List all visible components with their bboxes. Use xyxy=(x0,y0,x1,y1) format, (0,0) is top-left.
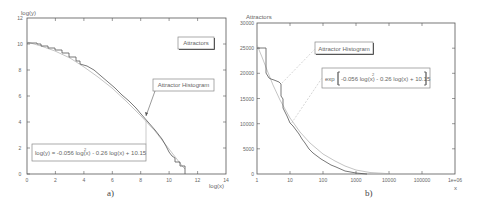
chart-b-fit-annotation: exp -0.056 log(x) - 0.26 log(x) + 10.15 … xyxy=(291,68,431,124)
svg-text:100000: 100000 xyxy=(414,177,431,183)
svg-text:100: 100 xyxy=(319,177,328,183)
chart-a-legend: Attractors xyxy=(178,37,215,50)
svg-text:15000: 15000 xyxy=(240,96,254,102)
chart-a: log(y) 0 2 4 6 8 10 12 xyxy=(17,10,229,198)
svg-text:4: 4 xyxy=(19,119,22,125)
svg-text:2: 2 xyxy=(54,177,57,183)
chart-b-fit-curve xyxy=(257,45,389,174)
svg-text:10: 10 xyxy=(287,177,293,183)
svg-text:10000: 10000 xyxy=(240,121,254,127)
svg-text:8: 8 xyxy=(139,177,142,183)
svg-text:log(y) = -0.056 log(x) - 0.26: log(y) = -0.056 log(x) - 0.26 log(x) + 1… xyxy=(35,150,147,156)
chart-a-fit-annotation: log(y) = -0.056 log(x) - 0.26 log(x) + 1… xyxy=(32,121,147,161)
svg-text:1e+06: 1e+06 xyxy=(448,177,462,183)
svg-text:12: 12 xyxy=(17,15,23,21)
figure: log(y) 0 2 4 6 8 10 12 xyxy=(0,0,480,202)
svg-text:0: 0 xyxy=(251,171,254,177)
chart-b: Attractors 0 5000 10000 15000 20000 2500… xyxy=(240,14,462,198)
chart-b-histogram xyxy=(257,48,367,174)
chart-a-caption: a) xyxy=(107,188,114,198)
chart-a-xlabel: log(x) xyxy=(209,183,224,189)
svg-text:30000: 30000 xyxy=(240,20,254,26)
svg-text:10000: 10000 xyxy=(382,177,396,183)
svg-text:25000: 25000 xyxy=(240,45,254,51)
svg-text:12: 12 xyxy=(195,177,201,183)
svg-text:Attractors: Attractors xyxy=(183,40,209,46)
svg-text:6: 6 xyxy=(111,177,114,183)
svg-text:6: 6 xyxy=(19,93,22,99)
svg-text:5000: 5000 xyxy=(243,146,254,152)
svg-text:Attractor Histogram: Attractor Histogram xyxy=(158,82,210,88)
svg-text:2: 2 xyxy=(19,145,22,151)
svg-text:0: 0 xyxy=(19,171,22,177)
svg-text:20000: 20000 xyxy=(240,70,254,76)
chart-a-ylabel: log(y) xyxy=(21,10,36,16)
svg-text:0: 0 xyxy=(26,177,29,183)
chart-a-histogram-annotation: Attractor Histogram xyxy=(145,79,214,116)
svg-text:Attractor Histogram: Attractor Histogram xyxy=(318,46,370,52)
svg-text:1000: 1000 xyxy=(350,177,361,183)
svg-text:1: 1 xyxy=(256,177,259,183)
chart-b-caption: b) xyxy=(365,188,373,198)
chart-b-xlabel: x xyxy=(454,185,457,191)
svg-text:10: 10 xyxy=(17,41,23,47)
svg-text:4: 4 xyxy=(83,177,86,183)
svg-text:10: 10 xyxy=(166,177,172,183)
svg-text:8: 8 xyxy=(19,67,22,73)
svg-text:exp: exp xyxy=(325,76,335,82)
svg-text:14: 14 xyxy=(223,177,229,183)
svg-text:-0.056 log(x) - 0.26 log(x) +: -0.056 log(x) - 0.26 log(x) + 10.15 xyxy=(341,76,431,82)
